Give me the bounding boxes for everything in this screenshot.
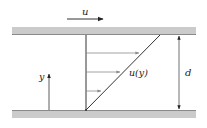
gap-label: d	[185, 67, 191, 78]
plate-velocity-label: u	[82, 6, 88, 17]
bottom-plate	[12, 110, 196, 118]
diagram-svg: u u(y) y d	[0, 0, 207, 128]
profile-label: u(y)	[129, 67, 148, 78]
profile-origin-dot	[85, 109, 87, 111]
couette-flow-diagram: u u(y) y d	[0, 0, 207, 128]
top-plate	[12, 27, 196, 35]
y-axis-label: y	[38, 71, 45, 82]
velocity-profile-line	[86, 35, 160, 110]
